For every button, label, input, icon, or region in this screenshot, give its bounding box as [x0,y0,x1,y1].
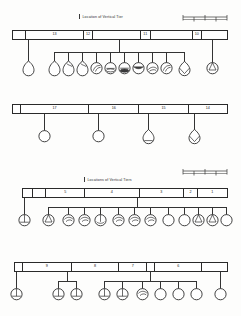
tier-cell-11[interactable]: 11 [141,31,151,39]
connector-stem [24,198,25,207]
connector-stem [220,272,221,281]
vessel-bowl-cross [52,286,65,301]
tier-cell-17[interactable]: 17 [21,105,90,113]
tier-cell-16[interactable]: 16 [89,105,139,113]
tier-cell-6[interactable]: 6 [155,263,202,271]
tier-cell-blank[interactable] [93,31,141,39]
tier-cell-14[interactable]: 14 [189,105,227,113]
tier-cell-blank[interactable] [13,105,21,113]
connector-bracket [58,281,76,282]
vessel-jar-rim [76,60,89,75]
vessel-bowl-notch [192,212,205,227]
section-label-top: Location of Vertical Tier [79,14,123,20]
tier-cell-blank[interactable] [202,263,227,271]
tier-cell-4[interactable]: 4 [85,189,139,197]
vessel-bowl-cross [98,286,111,301]
vessel-jar-rim [62,60,75,75]
vessel-group-row-3 [0,212,241,236]
section-label-top-text: Location of Vertical Tier [83,15,123,19]
vessel-bowl-cross [116,286,129,301]
tier-cell-blank[interactable] [202,31,227,39]
label-tick-icon [84,177,85,182]
vessel-cup-v [188,128,201,143]
scale-bar-top [182,10,228,28]
vessel-bowl-notch [206,212,219,227]
vessel-circle [92,128,105,143]
tier-cell-12[interactable]: 12 [84,31,94,39]
tier-cell-blank[interactable] [13,31,26,39]
vessel-circle [154,286,167,301]
vessel-bowl-notch [206,60,219,75]
tier-cell-9[interactable]: 9 [23,263,72,271]
vessel-bowl-swirl [136,286,149,301]
vessel-plain-jar [48,60,61,75]
vessel-bowl-spout [146,60,159,75]
tier-cell-15[interactable]: 15 [139,105,189,113]
connector-bracket [48,207,226,208]
vessel-bowl-swirl [112,212,125,227]
vessel-group-row-2 [0,128,241,152]
tier-bar-row-3[interactable]: 54321 [22,188,228,198]
tier-cell-blank[interactable] [151,31,193,39]
vessel-bowl-cross [18,212,31,227]
connector-stem [148,114,149,123]
vessel-bowl-line [94,212,107,227]
vessel-bowl-notch [42,212,55,227]
tier-bar-row-1[interactable]: 13121110 [12,30,228,40]
vessel-lid-dark [118,60,131,75]
vessel-bowl-swirl [78,212,91,227]
vessel-group-row-4 [0,286,241,310]
tier-bar-row-2[interactable]: 17161514 [12,104,228,114]
vessel-bowl-handle [160,60,173,75]
connector-stem [28,40,29,52]
label-tick-icon [79,14,80,19]
vessel-circle [214,286,227,301]
vessel-circle [38,128,51,143]
connector-stem [194,114,195,123]
vessel-bowl-swirl [62,212,75,227]
tier-cell-10[interactable]: 10 [193,31,203,39]
section-label-middle-text: Locations of Vertical Tiers [88,178,132,182]
tier-cell-8[interactable]: 8 [72,263,119,271]
vessel-circle [172,286,185,301]
connector-stem [67,272,68,281]
figure-sheet: Location of Vertical Tier 13121110 [0,0,241,316]
scale-bar-middle [182,164,228,182]
vessel-bowl-handle [90,60,103,75]
vessel-circle [220,212,233,227]
tier-cell-blank[interactable] [15,263,23,271]
tier-cell-3[interactable]: 3 [140,189,185,197]
tier-cell-blank[interactable] [33,189,47,197]
vessel-lid-flat [104,60,117,75]
vessel-circle [178,212,191,227]
connector-stem [212,40,213,52]
vessel-bowl-dark [132,60,145,75]
tier-cell-1[interactable]: 1 [198,189,227,197]
connector-stem [98,114,99,123]
vessel-group-row-1 [0,60,241,84]
vessel-bowl-swirl [144,212,157,227]
connector-stem [44,114,45,123]
tier-cell-5[interactable]: 5 [46,189,85,197]
vessel-bowl-swirl [128,212,141,227]
tier-cell-blank[interactable] [23,189,33,197]
tier-cell-13[interactable]: 13 [26,31,83,39]
vessel-bowl-cross [70,286,83,301]
connector-stem [137,198,138,207]
vessel-bowl-cross [10,286,23,301]
connector-stem [150,272,151,281]
tier-cell-7[interactable]: 7 [119,263,147,271]
section-label-middle: Locations of Vertical Tiers [84,177,132,183]
connector-stem [119,40,120,52]
connector-bracket [104,281,196,282]
vessel-circle [190,286,203,301]
vessel-circle [162,212,175,227]
connector-bracket [54,52,184,53]
vessel-cup-v [178,60,191,75]
tier-cell-2[interactable]: 2 [184,189,198,197]
vessel-plain-jar [22,60,35,75]
tier-cell-blank[interactable] [147,263,155,271]
connector-stem [16,272,17,281]
vessel-jar-round [142,128,155,143]
tier-bar-row-4[interactable]: 9876 [14,262,228,272]
